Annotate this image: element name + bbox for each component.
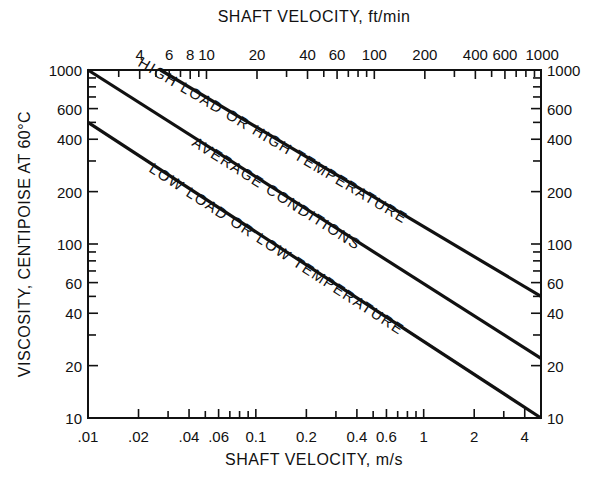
y-right-tick-label: 40 [547, 305, 564, 322]
y-left-tick-label: 400 [57, 131, 82, 148]
y-right-tick-label: 20 [547, 358, 564, 375]
y-left-tick-label: 1000 [49, 62, 82, 79]
x2-tick-label: 10 [198, 46, 215, 63]
top-x-axis-title: SHAFT VELOCITY, ft/min [218, 8, 411, 25]
y-left-tick-label: 20 [65, 358, 82, 375]
y-left-tick-label: 40 [65, 305, 82, 322]
x2-tick-label: 8 [186, 46, 194, 63]
x-tick-label: .04 [179, 428, 200, 445]
series-labels: HIGH LOAD OR HIGH TEMPERATUREAVERAGE CON… [136, 53, 412, 338]
x2-tick-label: 40 [299, 46, 316, 63]
x-axis-title: SHAFT VELOCITY, m/s [225, 451, 403, 468]
x-tick-label: 0.4 [346, 428, 367, 445]
y-left-tick-label: 10 [65, 410, 82, 427]
y-axis-title: VISCOSITY, CENTIPOISE AT 60°C [16, 111, 33, 377]
x2-tick-label: 20 [249, 46, 266, 63]
x-tick-label: .01 [78, 428, 99, 445]
x-tick-label: 0.2 [296, 428, 317, 445]
plot-border [88, 70, 541, 418]
viscosity-velocity-chart: .01.02.04.060.10.20.40.61244681020406010… [0, 0, 609, 487]
y-right-tick-label: 600 [547, 101, 572, 118]
x2-tick-label: 400 [463, 46, 488, 63]
x2-tick-label: 100 [362, 46, 387, 63]
x2-tick-label: 600 [492, 46, 517, 63]
y-right-tick-label: 400 [547, 131, 572, 148]
y-left-tick-label: 600 [57, 101, 82, 118]
x-tick-label: .06 [208, 428, 229, 445]
y-right-tick-label: 100 [547, 236, 572, 253]
axis-ticks: .01.02.04.060.10.20.40.61244681020406010… [49, 46, 581, 445]
x-tick-label: 4 [521, 428, 529, 445]
x-tick-label: 1 [420, 428, 428, 445]
plot-frame [88, 70, 541, 418]
chart-canvas: .01.02.04.060.10.20.40.61244681020406010… [0, 0, 609, 487]
y-left-tick-label: 200 [57, 184, 82, 201]
y-right-tick-label: 200 [547, 184, 572, 201]
y-right-tick-label: 1000 [547, 62, 580, 79]
x-tick-label: 2 [470, 428, 478, 445]
y-left-tick-label: 100 [57, 236, 82, 253]
y-left-tick-label: 60 [65, 275, 82, 292]
x2-tick-label: 200 [412, 46, 437, 63]
x-tick-label: .02 [128, 428, 149, 445]
x2-tick-label: 6 [165, 46, 173, 63]
data-series [88, 70, 541, 418]
x-tick-label: 0.6 [376, 428, 397, 445]
y-right-tick-label: 60 [547, 275, 564, 292]
y-right-tick-label: 10 [547, 410, 564, 427]
x-tick-label: 0.1 [245, 428, 266, 445]
x2-tick-label: 1000 [525, 46, 558, 63]
x2-tick-label: 60 [329, 46, 346, 63]
